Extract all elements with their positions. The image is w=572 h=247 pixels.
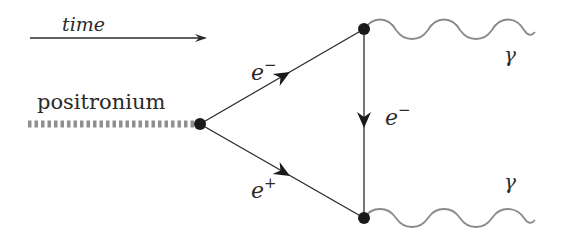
time-arrow: time [30,13,205,38]
electron-line-upper [200,29,364,124]
vertex-bottom [358,212,370,224]
positronium-label: positronium [37,90,165,114]
feynman-diagram: time positronium e− e+ e− γ γ [0,0,572,247]
electron-label-vertical: e− [385,101,411,130]
photon-line-bottom [364,209,535,227]
electron-label-upper: e− [251,56,277,85]
photon-label-bottom: γ [504,170,516,194]
vertex-top [358,23,370,35]
time-label: time [62,13,105,35]
positron-label: e+ [251,174,277,203]
photon-label-top: γ [504,43,516,67]
positron-line [200,124,364,218]
photon-line-top [364,20,535,40]
electron-line-vertical [357,29,371,218]
vertex-left [194,118,206,130]
